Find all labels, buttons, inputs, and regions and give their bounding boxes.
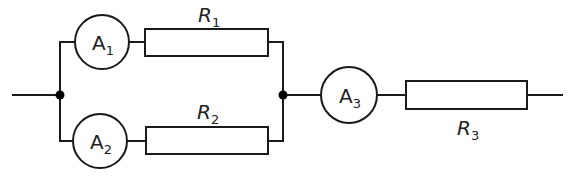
circuit-diagram: A1 R1 A2 R2 A3 R3	[0, 0, 577, 183]
resistor-r1-label: R1	[198, 3, 220, 30]
ammeter-a1: A1	[75, 15, 129, 69]
resistor-r2-body	[146, 127, 268, 154]
ammeter-a3: A3	[321, 67, 377, 123]
resistor-r2: R2	[146, 100, 268, 154]
resistor-r3-body	[406, 81, 527, 109]
resistor-r3: R3	[406, 81, 527, 143]
resistor-r2-label: R2	[197, 100, 219, 127]
left-junction	[56, 91, 65, 100]
ammeter-a2: A2	[73, 114, 127, 168]
resistor-r1-body	[145, 29, 268, 56]
left-bottom-wire	[60, 95, 73, 141]
resistor-r3-label: R3	[457, 116, 479, 143]
left-top-wire	[60, 42, 75, 95]
right-junction	[279, 91, 288, 100]
resistor-r1: R1	[145, 3, 268, 56]
